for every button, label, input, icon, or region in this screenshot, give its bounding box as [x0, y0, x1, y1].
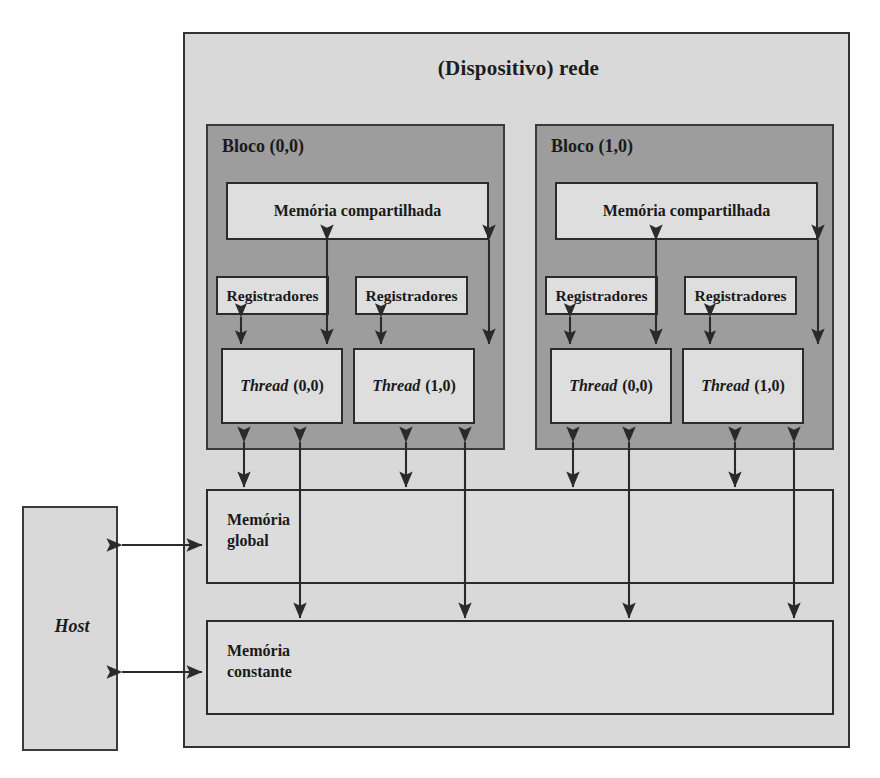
block-0-0: Bloco (0,0) Memória compartilhada Regist…: [206, 124, 505, 450]
shared-memory-box: Memória compartilhada: [226, 182, 489, 240]
thread-box: Thread(1,0): [353, 348, 475, 424]
thread-index: (1,0): [425, 377, 456, 395]
shared-memory-box: Memória compartilhada: [555, 182, 818, 240]
thread-index: (0,0): [293, 377, 324, 395]
thread-word: Thread: [701, 377, 749, 395]
thread-box: Thread(0,0): [550, 348, 672, 424]
thread-word: Thread: [569, 377, 617, 395]
registers-box: Registradores: [545, 276, 658, 315]
host-box: Host: [22, 506, 118, 751]
thread-box: Thread(1,0): [682, 348, 804, 424]
thread-index: (0,0): [622, 377, 653, 395]
thread-index: (1,0): [754, 377, 785, 395]
registers-box: Registradores: [684, 276, 797, 315]
registers-box: Registradores: [216, 276, 329, 315]
thread-box: Thread(0,0): [221, 348, 343, 424]
global-memory-box: Memória global: [206, 489, 834, 584]
block-1-0: Bloco (1,0) Memória compartilhada Regist…: [535, 124, 834, 450]
global-memory-label: Memória global: [227, 510, 290, 552]
block-title: Bloco (1,0): [551, 136, 633, 157]
device-title: (Dispositivo) rede: [185, 56, 852, 81]
host-label: Host: [24, 616, 120, 637]
diagram-canvas: Host (Dispositivo) rede Bloco (0,0) Memó…: [0, 0, 880, 778]
constant-memory-label: Memória constante: [227, 641, 292, 683]
registers-box: Registradores: [355, 276, 468, 315]
block-title: Bloco (0,0): [222, 136, 304, 157]
thread-word: Thread: [372, 377, 420, 395]
constant-memory-box: Memória constante: [206, 620, 834, 715]
thread-word: Thread: [240, 377, 288, 395]
